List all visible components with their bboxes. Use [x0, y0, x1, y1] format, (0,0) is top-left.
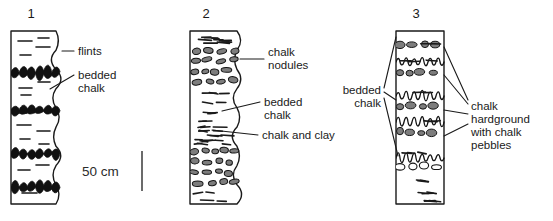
bedding-dash — [206, 192, 214, 193]
chalk-pebble — [419, 162, 428, 169]
chalk-pebble — [396, 104, 403, 110]
label-bedded-chalk-2-text: beddedchalk — [264, 96, 302, 121]
chalk-nodule — [226, 160, 233, 166]
chalk-nodule — [212, 149, 219, 154]
label-line: bedded — [78, 69, 116, 81]
label-chalk-hardground-leader — [444, 124, 468, 136]
bedding-dash — [402, 153, 412, 154]
chalk-pebble — [432, 165, 442, 170]
label-chalk-nodules: chalknodules — [240, 46, 309, 71]
clay-dash — [221, 135, 234, 136]
label-chalk-hardground-leader — [444, 75, 468, 104]
bedding-dash — [418, 193, 428, 194]
bedding-dash — [194, 143, 201, 144]
chalk-nodule — [192, 181, 203, 187]
label-line: nodules — [268, 59, 309, 71]
bedding-dash — [216, 140, 223, 141]
chalk-pebble — [428, 102, 438, 109]
chalk-pebble — [406, 42, 417, 48]
chalk-nodule — [216, 158, 223, 163]
label-line: chalk — [264, 109, 291, 121]
chalk-pebble — [395, 41, 405, 48]
chalk-nodule — [190, 157, 199, 164]
label-bedded-chalk-3-text: beddedchalk — [343, 84, 382, 109]
label-line: bedded — [343, 84, 381, 96]
chalk-pebble — [414, 69, 425, 76]
label-chalk-hardground-leader — [444, 110, 468, 114]
bedding-dash — [200, 141, 208, 142]
chalk-pebble — [418, 131, 425, 136]
stratigraphic-log-figure: 123flintsbeddedchalkchalknodulesbeddedch… — [0, 0, 553, 221]
bedding-dash — [222, 144, 230, 145]
label-line: bedded — [264, 96, 302, 108]
column-3: 3 — [395, 6, 444, 204]
chalk-nodule — [190, 69, 199, 76]
chalk-nodule — [202, 160, 212, 165]
chalk-pebble — [397, 127, 404, 134]
chalk-nodule — [215, 169, 222, 174]
bedding-dash — [208, 113, 215, 114]
chalk-nodule — [224, 170, 233, 177]
column-2: 2 — [189, 6, 241, 204]
chalk-pebble — [405, 102, 416, 109]
label-line: chalk — [471, 100, 498, 112]
chalk-nodule — [202, 170, 212, 175]
chalk-nodule — [221, 67, 232, 72]
column-2-number: 2 — [202, 6, 209, 21]
label-line: flints — [78, 45, 102, 57]
label-line: hardground — [471, 113, 530, 125]
chalk-nodule — [210, 69, 219, 76]
bedding-dash — [424, 201, 437, 202]
bedding-dash — [198, 39, 211, 40]
label-line: chalk — [78, 82, 105, 94]
label-chalk-hardground-leader — [444, 47, 468, 100]
label-chalk-hardground-text: chalkhardgroundwith chalkpebbles — [470, 100, 530, 151]
label-line: with chalk — [470, 126, 522, 138]
chalk-pebble — [406, 70, 413, 76]
label-line: chalk — [354, 97, 381, 109]
bedding-dash — [426, 60, 437, 61]
label-line: chalk — [268, 46, 295, 58]
chalk-nodule — [229, 56, 238, 62]
chalk-pebble — [395, 164, 405, 171]
label-flints-text: flints — [78, 45, 102, 57]
column-1-number: 1 — [27, 6, 34, 21]
label-bedded-chalk-1-text: beddedchalk — [78, 69, 116, 94]
chalk-pebble — [405, 129, 414, 135]
chalk-pebble — [429, 70, 437, 75]
bedding-dash — [219, 42, 229, 43]
label-bedded-chalk-3-leader — [384, 92, 396, 100]
label-chalk-hardground: chalkhardgroundwith chalkpebbles — [444, 47, 530, 151]
diagram-canvas: 123flintsbeddedchalkchalknodulesbeddedch… — [0, 0, 553, 221]
scale-bar: 50 cm — [82, 151, 142, 191]
column-1: 1 — [11, 6, 61, 204]
bedding-dash — [428, 121, 440, 122]
label-chalk-nodules-text: chalknodules — [268, 46, 309, 71]
chalk-pebble — [409, 163, 417, 170]
column-3-number: 3 — [412, 6, 419, 21]
chalk-nodule — [191, 58, 200, 63]
bedding-dash — [416, 180, 424, 181]
chalk-nodule — [230, 148, 239, 153]
label-bedded-chalk-3-leader — [384, 37, 396, 88]
label-bedded-chalk-3: beddedchalk — [343, 37, 398, 156]
label-line: pebbles — [471, 139, 512, 151]
bedding-dash — [212, 38, 219, 39]
label-flints: flints — [62, 45, 102, 57]
chalk-pebble — [419, 104, 426, 109]
scale-bar-label: 50 cm — [82, 164, 119, 179]
label-line: chalk and clay — [262, 129, 335, 141]
chalk-pebble — [396, 70, 403, 76]
chalk-pebble — [426, 129, 437, 137]
label-chalk-and-clay-text: chalk and clay — [262, 129, 335, 141]
column-1-outline — [11, 31, 61, 204]
chalk-nodule — [220, 147, 229, 153]
